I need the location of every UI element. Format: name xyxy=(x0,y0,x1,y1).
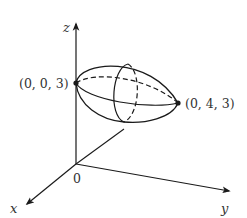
point-right-vertex xyxy=(175,100,180,105)
ellipsoid-back-equator xyxy=(76,77,178,103)
point-left-label: (0, 0, 3) xyxy=(19,76,69,91)
cross-section-front xyxy=(114,64,128,122)
ellipsoid-diagram: z x y 0 (0, 0, 3) (0, 4, 3) xyxy=(0,0,247,218)
y-axis-label: y xyxy=(220,201,229,216)
x-axis xyxy=(27,164,76,204)
x-axis-label: x xyxy=(10,201,18,216)
point-right-label: (0, 4, 3) xyxy=(185,96,235,111)
projection-line xyxy=(76,129,124,164)
cross-section-back xyxy=(124,64,137,122)
y-axis xyxy=(76,164,229,191)
origin-label: 0 xyxy=(73,171,81,186)
z-axis-label: z xyxy=(62,20,70,35)
point-left-vertex xyxy=(73,80,78,85)
ellipsoid-front-equator xyxy=(76,83,178,105)
